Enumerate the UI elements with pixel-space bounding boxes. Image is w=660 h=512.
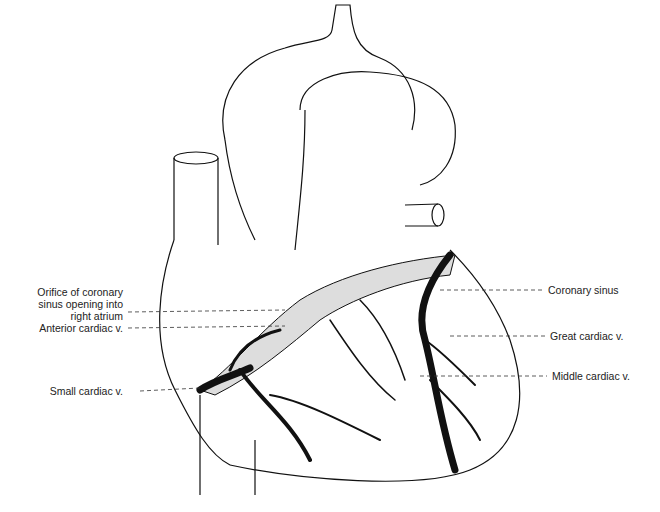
label-coronary-sinus: Coronary sinus <box>548 284 619 296</box>
label-small-cardiac-vein: Small cardiac v. <box>10 385 123 397</box>
heart-illustration <box>0 0 660 512</box>
label-middle-cardiac-vein: Middle cardiac v. <box>552 370 630 382</box>
label-anterior-cardiac-vein: Anterior cardiac v. <box>10 322 123 334</box>
label-orifice-coronary-sinus: Orifice of coronary sinus opening into r… <box>10 286 123 322</box>
label-great-cardiac-vein: Great cardiac v. <box>550 330 623 342</box>
